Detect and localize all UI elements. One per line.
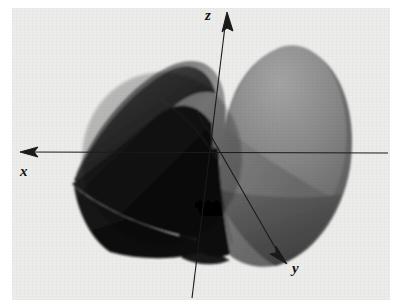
- plot-panel: [12, 8, 390, 300]
- figure-container: x z y: [0, 0, 396, 308]
- y-axis-label: y: [292, 261, 299, 276]
- scan-vignette: [82, 72, 242, 244]
- z-axis-arrowhead: [222, 12, 233, 32]
- z-axis-label: z: [205, 8, 211, 23]
- surface-plot-svg: [12, 8, 390, 300]
- x-axis-label: x: [20, 164, 28, 179]
